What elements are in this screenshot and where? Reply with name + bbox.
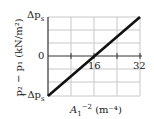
chart: Δps 0 −Δps 16 32 A1−2 (m⁻⁴) p₂ − p₁ (kN/… xyxy=(0,0,154,119)
x-tick-32: 32 xyxy=(133,61,146,71)
x-tick-16: 16 xyxy=(88,61,101,71)
y-tick-zero: 0 xyxy=(38,51,44,61)
y-axis-label: p₂ − p₁ (kN/m²) xyxy=(13,18,24,98)
y-tick-top: Δps xyxy=(27,10,44,24)
x-axis-label: A1−2 (m⁻⁴) xyxy=(70,102,122,119)
